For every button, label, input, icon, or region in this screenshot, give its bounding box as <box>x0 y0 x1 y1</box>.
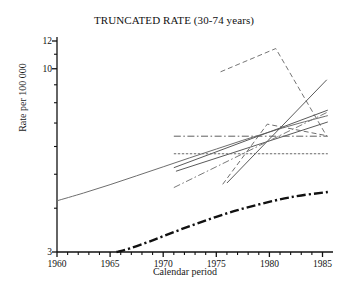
y-axis-label: Rate per 100 000 <box>17 28 28 168</box>
series-line-rising-dashdot-line <box>174 113 327 188</box>
y-tick-label: 3 <box>20 247 52 257</box>
series-line-peaked-dashed-line <box>221 49 327 137</box>
series-line-steep-rising-solid-line <box>227 80 327 183</box>
series-line-lower-thick-dashdot-curve <box>116 192 327 252</box>
x-axis-label: Calendar period <box>40 266 330 277</box>
plot-area <box>0 0 348 289</box>
series-line-long-trend-smooth-curve <box>57 116 328 201</box>
series-line-medium-rising-solid-line <box>174 110 328 168</box>
series-line-shallow-rising-solid-line <box>176 122 328 171</box>
series-layer <box>57 49 328 252</box>
chart-figure: TRUNCATED RATE (30-74 years) 31012 19601… <box>0 0 348 289</box>
